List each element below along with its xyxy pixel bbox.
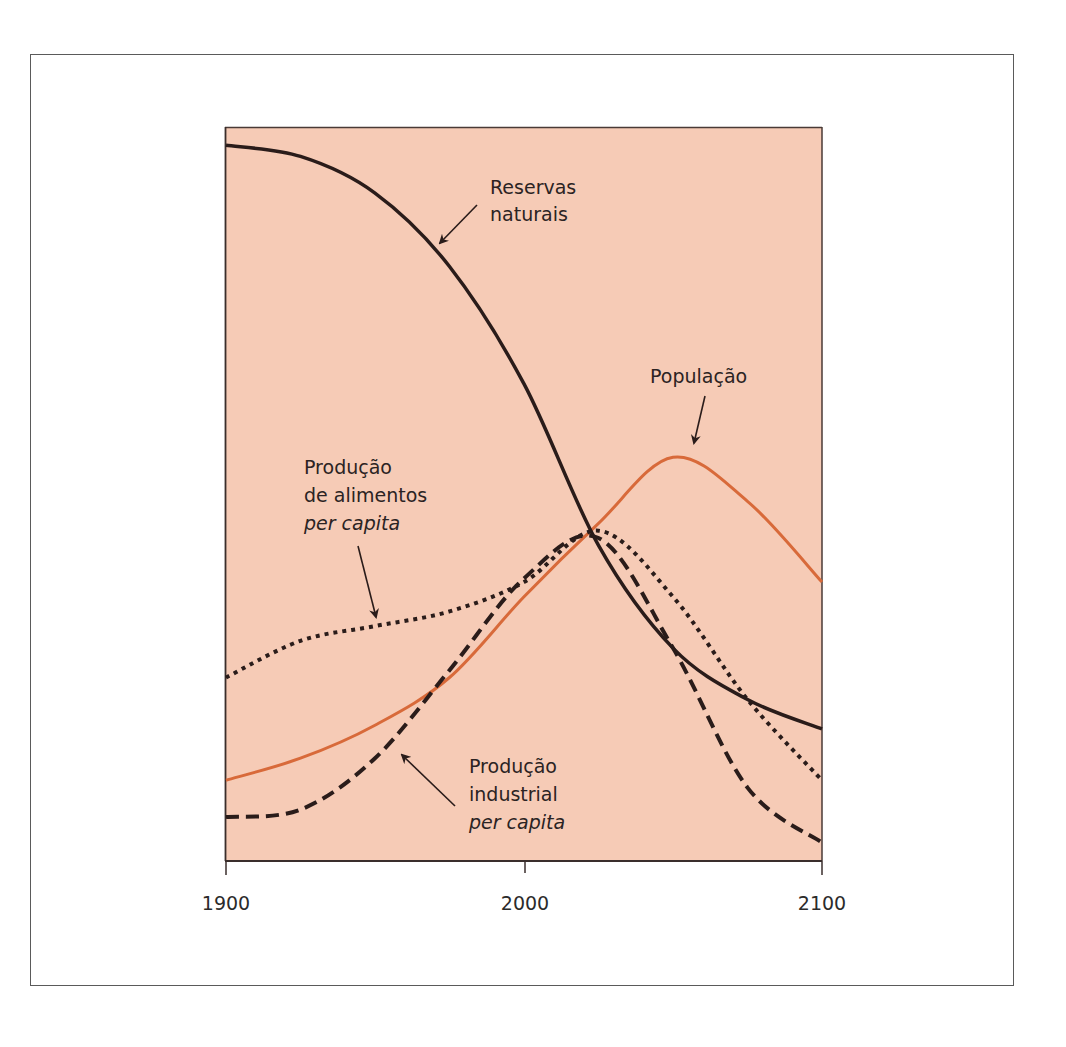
label-alimentos-line3: per capita <box>303 512 400 534</box>
label-alimentos-line2: de alimentos <box>304 484 427 506</box>
chart-svg: 1900 2000 2100 Reservas naturais Populaç… <box>0 0 1066 1047</box>
label-populacao: População <box>650 365 747 387</box>
label-alimentos-line1: Produção <box>304 456 392 478</box>
label-industrial-line2: industrial <box>469 783 558 805</box>
label-reservas-line1: Reservas <box>490 176 576 198</box>
label-reservas-line2: naturais <box>490 203 568 225</box>
x-tick-label-1900: 1900 <box>202 892 250 914</box>
label-industrial-line1: Produção <box>469 755 557 777</box>
x-tick-label-2100: 2100 <box>798 892 846 914</box>
label-industrial-line3: per capita <box>468 811 565 833</box>
x-tick-label-2000: 2000 <box>501 892 549 914</box>
